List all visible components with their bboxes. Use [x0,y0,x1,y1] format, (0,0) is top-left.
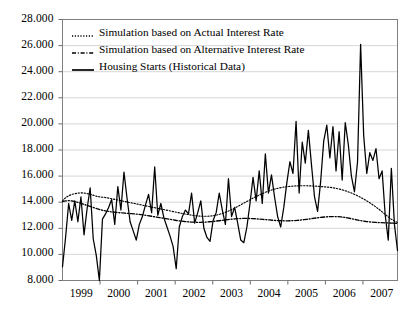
legend-item-historical: Housing Starts (Historical Data) [72,60,245,72]
legend-swatch-dashed [72,44,94,54]
y-tick-label: 16.000 [0,168,54,180]
y-axis-ticks [59,20,63,281]
y-tick-label: 24.000 [0,64,54,76]
y-tick-label: 28.000 [0,12,54,24]
y-tick-label: 8.000 [0,273,54,285]
y-tick-label: 12.000 [0,220,54,232]
data-series-group [63,44,398,280]
legend-item-alternative: Simulation based on Alternative Interest… [72,43,305,55]
series-line-2 [63,44,398,280]
y-tick-label: 20.000 [0,116,54,128]
legend-label-historical: Housing Starts (Historical Data) [99,60,245,72]
housing-starts-chart: 8.00010.00012.00014.00016.00018.00020.00… [0,0,417,326]
y-tick-label: 14.000 [0,194,54,206]
x-axis-ticks [100,281,363,285]
legend-swatch-dotted [72,27,94,37]
legend-label-actual: Simulation based on Actual Interest Rate [99,26,284,38]
y-tick-label: 22.000 [0,90,54,102]
legend-swatch-solid [72,61,94,71]
y-tick-label: 18.000 [0,142,54,154]
legend-label-alternative: Simulation based on Alternative Interest… [99,43,305,55]
y-tick-label: 26.000 [0,38,54,50]
x-tick-label: 2007 [356,287,408,299]
y-tick-label: 10.000 [0,246,54,258]
legend-item-actual: Simulation based on Actual Interest Rate [72,26,284,38]
